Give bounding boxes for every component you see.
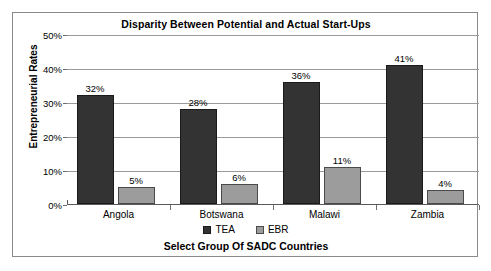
x-axis-category-label-angola: Angola	[103, 209, 134, 220]
x-axis-tick-mark	[376, 205, 377, 210]
y-axis-tick-mark	[63, 69, 67, 70]
legend-label-ebr: EBR	[268, 224, 289, 235]
legend-label-tea: TEA	[215, 224, 234, 235]
y-axis-tick-mark	[63, 171, 67, 172]
y-axis-tick-mark	[63, 205, 67, 206]
x-axis-category-label-botswana: Botswana	[200, 209, 244, 220]
y-axis-tick-label: 30%	[43, 98, 62, 109]
x-axis-tick-mark	[273, 205, 274, 210]
x-axis-category-label-zambia: Zambia	[411, 209, 444, 220]
y-axis-tick-label: 0%	[48, 200, 62, 211]
x-axis-category-label-malawi: Malawi	[309, 209, 340, 220]
bar-value-label: 28%	[188, 97, 207, 108]
x-axis-tick-mark	[170, 205, 171, 210]
x-axis-title: Select Group Of SADC Countries	[13, 240, 479, 252]
bar-malawi-tea	[283, 82, 320, 204]
y-axis-title: Entrepreneurial Rates	[28, 31, 39, 163]
chart-title: Disparity Between Potential and Actual S…	[13, 18, 479, 30]
bar-value-label: 11%	[333, 155, 351, 166]
y-axis-tick-label: 20%	[43, 132, 62, 143]
y-axis-tick-mark	[63, 137, 67, 138]
legend-swatch-ebr-icon	[256, 226, 264, 234]
legend-item-ebr: EBR	[256, 224, 289, 235]
bar-value-label: 5%	[129, 175, 143, 186]
y-axis-tick-label: 50%	[43, 30, 62, 41]
legend-swatch-tea-icon	[203, 226, 211, 234]
bar-malawi-ebr	[324, 167, 361, 204]
bar-value-label: 41%	[394, 53, 413, 64]
legend-item-tea: TEA	[203, 224, 234, 235]
bar-value-label: 36%	[291, 70, 310, 81]
chart-container: Disparity Between Potential and Actual S…	[12, 12, 478, 257]
y-axis-tick-mark	[63, 35, 67, 36]
bar-botswana-tea	[180, 109, 217, 204]
y-axis-line	[67, 200, 68, 205]
bar-value-label: 4%	[438, 178, 452, 189]
y-axis-tick-label: 10%	[43, 166, 62, 177]
bar-value-label: 32%	[85, 83, 104, 94]
bar-angola-tea	[77, 95, 114, 204]
y-axis-tick-mark	[63, 103, 67, 104]
bar-zambia-tea	[386, 65, 423, 204]
bar-botswana-ebr	[221, 184, 258, 204]
x-axis-tick-mark	[479, 205, 480, 210]
plot-area: 0%10%20%30%40%50%32%5%28%6%36%11%41%4%	[67, 35, 479, 205]
bar-angola-ebr	[118, 187, 155, 204]
bar-zambia-ebr	[427, 190, 464, 204]
bar-value-label: 6%	[232, 172, 246, 183]
chart-legend: TEA EBR	[13, 224, 479, 235]
gridline	[67, 35, 479, 36]
y-axis-tick-label: 40%	[43, 64, 62, 75]
